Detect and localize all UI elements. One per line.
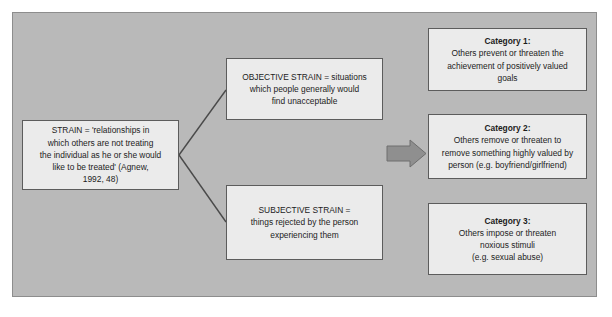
objective-strain-box: OBJECTIVE STRAIN = situations which peop… [226,58,383,120]
category-2-line-2: remove something highly valued by [442,147,573,159]
diagram-canvas: STRAIN = 'relationships in which others … [0,0,612,317]
category-3-line-1: Others impose or threaten [459,227,556,239]
category-1-line-1: Others prevent or threaten the [451,47,563,59]
category-3-line-2: noxious stimuli [480,239,535,251]
objective-line-2: which people generally would [250,83,359,95]
strain-line-4: like to be treated' (Agnew, [52,161,148,173]
strain-line-1: STRAIN = 'relationships in [52,124,150,136]
objective-line-3: find unacceptable [272,95,338,107]
category-1-box: Category 1: Others prevent or threaten t… [428,28,587,91]
category-1-heading: Category 1: [484,35,530,47]
category-3-line-3: (e.g. sexual abuse) [472,251,543,263]
subjective-strain-box: SUBJECTIVE STRAIN = things rejected by t… [226,185,383,260]
strain-line-2: which others are not treating [48,137,154,149]
subjective-line-3: experiencing them [270,229,338,241]
category-1-line-2: achievement of positively valued [447,60,568,72]
strain-line-3: the individual as he or she would [40,149,162,161]
strain-line-5: 1992, 48) [83,173,118,185]
category-2-box: Category 2: Others remove or threaten to… [428,114,587,179]
category-1-line-3: goals [497,72,517,84]
category-2-line-1: Others remove or threaten to [454,134,562,146]
subjective-line-1: SUBJECTIVE STRAIN = [259,204,351,216]
category-2-heading: Category 2: [484,122,530,134]
subjective-line-2: things rejected by the person [251,216,359,228]
category-3-box: Category 3: Others impose or threaten no… [428,203,587,275]
strain-definition-box: STRAIN = 'relationships in which others … [22,120,179,190]
category-3-heading: Category 3: [484,215,530,227]
category-2-line-3: person (e.g. boyfriend/girlfriend) [448,159,567,171]
objective-line-1: OBJECTIVE STRAIN = situations [242,71,367,83]
